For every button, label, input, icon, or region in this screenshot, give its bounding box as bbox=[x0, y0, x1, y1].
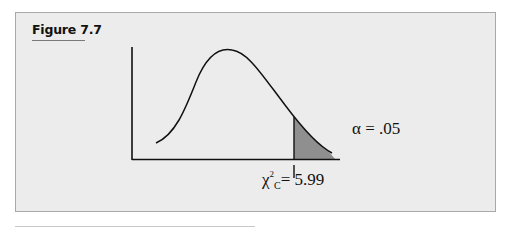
chi-value: = 5.99 bbox=[281, 170, 325, 189]
chi-square-plot bbox=[0, 0, 512, 228]
chi-superscript: 2 bbox=[270, 169, 275, 179]
alpha-label: α = .05 bbox=[352, 119, 400, 139]
chi-symbol: χ bbox=[262, 170, 270, 189]
chi-subscript: C bbox=[274, 180, 281, 191]
critical-value-label: χ2C= 5.99 bbox=[262, 170, 324, 191]
page-rule bbox=[15, 226, 255, 227]
